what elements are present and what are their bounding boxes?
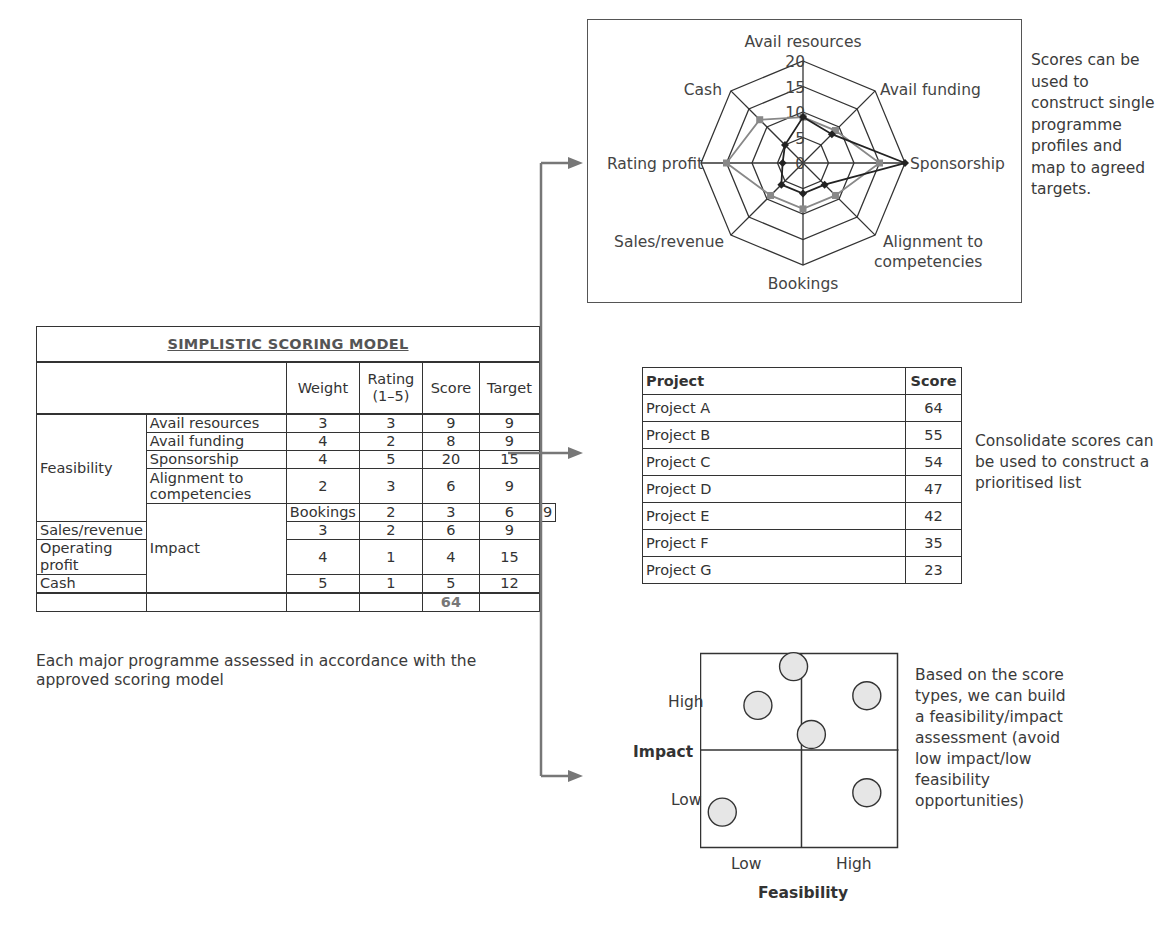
radar-tick-label: 5 (795, 130, 805, 148)
radar-marker (800, 205, 807, 212)
radar-marker (901, 159, 909, 167)
list-item: Project B55 (643, 422, 962, 449)
arrow-head-radar (568, 157, 583, 169)
project-score: 54 (906, 449, 962, 476)
matrix-bubble (853, 779, 881, 807)
radar-marker (723, 160, 730, 167)
list-item: Project G23 (643, 557, 962, 584)
radar-axis-label: Avail funding (880, 81, 981, 99)
project-name: Project F (643, 530, 906, 557)
matrix-bubble (853, 682, 881, 710)
project-score: 42 (906, 503, 962, 530)
arrow-head-matrix (568, 770, 583, 782)
matrix-bubble (744, 691, 772, 719)
header-project: Project (643, 368, 906, 395)
radar-tick-label: 20 (785, 53, 805, 71)
project-score: 23 (906, 557, 962, 584)
arrow-head-list (568, 447, 583, 459)
project-name: Project A (643, 395, 906, 422)
radar-note: Scores can be used to construct single p… (1031, 50, 1161, 201)
list-item: Project E42 (643, 503, 962, 530)
project-name: Project C (643, 449, 906, 476)
project-score: 35 (906, 530, 962, 557)
radar-tick-label: 15 (785, 79, 805, 97)
list-item: Project C54 (643, 449, 962, 476)
radar-axis-label: Bookings (768, 275, 839, 293)
impact-low-label: Low (671, 791, 702, 810)
radar-chart: 05101520Avail resourcesAvail fundingSpon… (587, 19, 1022, 303)
project-score: 64 (906, 395, 962, 422)
project-score: 47 (906, 476, 962, 503)
matrix-bubble (708, 798, 736, 826)
radar-axis-label: Sponsorship (910, 155, 1005, 173)
radar-axis-label: Rating profit (607, 155, 703, 173)
feasibility-axis-label: Feasibility (758, 884, 848, 903)
list-note: Consolidate scores can be used to constr… (975, 431, 1165, 494)
matrix-bubble (797, 720, 825, 748)
radar-marker (876, 160, 883, 167)
project-name: Project G (643, 557, 906, 584)
list-item: Project A64 (643, 395, 962, 422)
radar-marker (779, 159, 787, 167)
radar-tick-label: 0 (795, 155, 805, 173)
project-score: 55 (906, 422, 962, 449)
matrix-note: Based on the score types, we can build a… (915, 665, 1075, 812)
impact-high-label: High (668, 693, 704, 712)
radar-axis-label: Alignment to (883, 233, 983, 251)
radar-axis-label: Cash (684, 81, 722, 99)
radar-axis-label: competencies (874, 253, 982, 271)
feasibility-high-label: High (836, 855, 872, 874)
prioritised-project-list: Project Score Project A64 Project B55 Pr… (642, 367, 962, 584)
feasibility-impact-matrix (700, 650, 900, 850)
list-item: Project D47 (643, 476, 962, 503)
impact-axis-label: Impact (633, 743, 693, 762)
radar-marker (756, 116, 763, 123)
radar-axis-label: Sales/revenue (614, 233, 724, 251)
feasibility-low-label: Low (731, 855, 762, 874)
radar-marker (767, 192, 774, 199)
header-score: Score (906, 368, 962, 395)
project-name: Project E (643, 503, 906, 530)
matrix-bubble (780, 653, 808, 681)
project-name: Project D (643, 476, 906, 503)
radar-marker (832, 192, 839, 199)
radar-marker (799, 190, 807, 198)
radar-axis-label: Avail resources (744, 33, 861, 51)
list-item: Project F35 (643, 530, 962, 557)
project-name: Project B (643, 422, 906, 449)
